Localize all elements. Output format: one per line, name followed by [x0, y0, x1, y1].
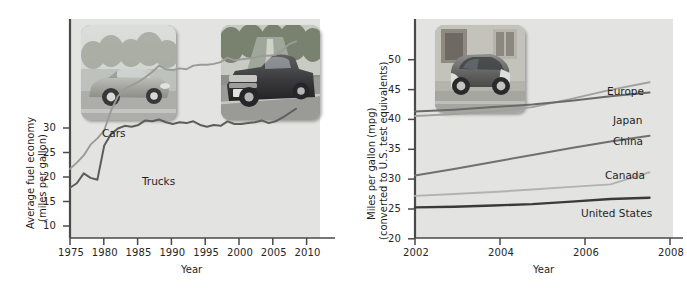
- right-y-axis-title-line2: (converted to U.S. test equivalents): [378, 62, 389, 240]
- left-xtick-2000: 2000: [227, 247, 253, 258]
- left-xtick-1995: 1995: [193, 247, 219, 258]
- right-ytick-30: 30: [388, 173, 401, 184]
- chart-international-fuel-economy: 50 45 40 35 30 25 20 2002 2004 2006 2008…: [345, 0, 687, 288]
- left-xtick-1990: 1990: [159, 247, 185, 258]
- right-xtick-2008: 2008: [658, 247, 684, 258]
- left-y-axis-title-line2: (miles per gallon): [37, 134, 48, 222]
- right-ytick-25: 25: [388, 203, 401, 214]
- left-xtick-2010: 2010: [295, 247, 321, 258]
- left-xtick-1975: 1975: [58, 247, 84, 258]
- right-ytick-45: 45: [388, 84, 401, 95]
- left-chart-plot: [0, 0, 345, 288]
- series-label-cars: Cars: [102, 127, 126, 139]
- left-y-axis-title-line1: Average fuel economy: [25, 117, 36, 229]
- left-ytick-30: 30: [43, 122, 56, 133]
- right-xtick-2004: 2004: [488, 247, 514, 258]
- series-line-united-states: [415, 198, 650, 208]
- series-label-united-states: United States: [581, 207, 652, 219]
- right-ytick-50: 50: [388, 54, 401, 65]
- left-x-axis-title: Year: [181, 264, 202, 275]
- figure-root: 30 25 20 15 10 1975 1980 1985 1990 1995 …: [0, 0, 687, 288]
- series-label-europe: Europe: [607, 85, 644, 97]
- series-label-china: China: [613, 135, 643, 147]
- right-ytick-35: 35: [388, 143, 401, 154]
- right-ytick-40: 40: [388, 113, 401, 124]
- right-y-axis-title-line1: Miles per gallon (mpg): [366, 108, 377, 220]
- chart-us-fuel-economy: 30 25 20 15 10 1975 1980 1985 1990 1995 …: [0, 0, 345, 288]
- series-label-japan: Japan: [613, 114, 642, 126]
- right-ytick-20: 20: [388, 233, 401, 244]
- right-xtick-2006: 2006: [573, 247, 599, 258]
- series-line-trucks: [70, 109, 296, 188]
- right-x-axis-title: Year: [533, 264, 554, 275]
- left-xtick-1980: 1980: [92, 247, 118, 258]
- left-xtick-1985: 1985: [126, 247, 152, 258]
- right-xtick-2002: 2002: [403, 247, 429, 258]
- series-label-trucks: Trucks: [142, 175, 175, 187]
- series-label-canada: Canada: [605, 169, 645, 181]
- left-xtick-2005: 2005: [261, 247, 287, 258]
